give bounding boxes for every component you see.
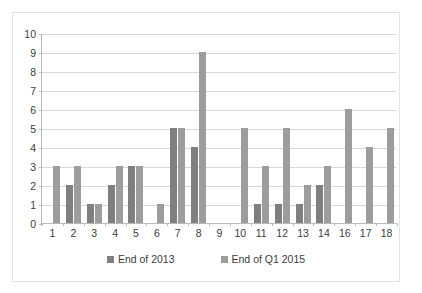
bar-group — [146, 34, 167, 223]
x-axis-tick-mark — [397, 223, 398, 226]
chart-legend: End of 2013 End of Q1 2015 — [13, 254, 399, 265]
x-axis-tick-label: 18 — [381, 228, 393, 239]
x-axis-tick-mark — [230, 223, 231, 226]
x-axis-tick-mark — [355, 223, 356, 226]
y-axis-tick-label: 4 — [30, 143, 36, 154]
bar-group — [126, 34, 147, 223]
y-axis-tick-label: 9 — [30, 48, 36, 59]
x-axis-tick-mark — [146, 223, 147, 226]
legend-item-end-of-2013: End of 2013 — [107, 254, 175, 265]
bar — [170, 128, 177, 223]
bar-group — [209, 34, 230, 223]
legend-item-end-of-q1-2015: End of Q1 2015 — [221, 254, 306, 265]
bar-group — [272, 34, 293, 223]
bar — [116, 166, 123, 223]
y-axis-tick-label: 6 — [30, 105, 36, 116]
plot-area: 012345678910 1234567891011121314161718 — [41, 34, 396, 224]
x-axis-tick-label: 6 — [154, 228, 160, 239]
bar — [296, 204, 303, 223]
x-axis-tick-label: 17 — [360, 228, 372, 239]
x-axis-tick-mark — [293, 223, 294, 226]
bar — [87, 204, 94, 223]
x-axis-tick-label: 12 — [276, 228, 288, 239]
x-axis-tick-label: 1 — [50, 228, 56, 239]
bar-group — [251, 34, 272, 223]
x-axis-tick-label: 3 — [91, 228, 97, 239]
x-axis-tick-label: 16 — [339, 228, 351, 239]
x-axis-tick-mark — [376, 223, 377, 226]
x-axis-tick-label: 9 — [217, 228, 223, 239]
x-axis-tick-mark — [105, 223, 106, 226]
legend-label: End of 2013 — [118, 254, 175, 265]
bar — [345, 109, 352, 223]
x-axis-tick-label: 10 — [235, 228, 247, 239]
bar-group — [63, 34, 84, 223]
x-axis-tick-mark — [209, 223, 210, 226]
bar-group — [334, 34, 355, 223]
chart-card: 012345678910 1234567891011121314161718 E… — [12, 12, 400, 282]
bar-group — [313, 34, 334, 223]
bar — [262, 166, 269, 223]
bars-container — [42, 34, 396, 223]
y-axis-tick-label: 2 — [30, 181, 36, 192]
bar — [178, 128, 185, 223]
x-axis-tick-mark — [272, 223, 273, 226]
x-axis-tick-mark — [334, 223, 335, 226]
x-axis-tick-mark — [126, 223, 127, 226]
bar — [66, 185, 73, 223]
x-axis-tick-mark — [313, 223, 314, 226]
x-axis-tick-label: 14 — [318, 228, 330, 239]
bar — [304, 185, 311, 223]
y-axis-tick-label: 5 — [30, 124, 36, 135]
y-axis-tick-label: 1 — [30, 200, 36, 211]
bar — [316, 185, 323, 223]
y-axis-tick-label: 7 — [30, 86, 36, 97]
bar-group — [230, 34, 251, 223]
bar-group — [188, 34, 209, 223]
bar-group — [42, 34, 63, 223]
bar-group — [376, 34, 397, 223]
bar — [136, 166, 143, 223]
bar — [241, 128, 248, 223]
legend-swatch-icon — [107, 256, 114, 263]
bar — [275, 204, 282, 223]
bar-group — [355, 34, 376, 223]
bar — [199, 52, 206, 223]
bar — [74, 166, 81, 223]
x-axis-tick-label: 13 — [297, 228, 309, 239]
bar-group — [293, 34, 314, 223]
bar — [53, 166, 60, 223]
x-axis-tick-label: 2 — [70, 228, 76, 239]
x-axis-tick-mark — [63, 223, 64, 226]
x-axis-tick-mark — [84, 223, 85, 226]
x-axis-tick-label: 8 — [196, 228, 202, 239]
bar — [283, 128, 290, 223]
x-axis-tick-mark — [251, 223, 252, 226]
bar — [128, 166, 135, 223]
bar — [95, 204, 102, 223]
legend-label: End of Q1 2015 — [232, 254, 306, 265]
x-axis-tick-label: 11 — [256, 228, 267, 239]
x-axis-tick-mark — [188, 223, 189, 226]
bar — [387, 128, 394, 223]
y-axis-tick-label: 8 — [30, 67, 36, 78]
bar — [108, 185, 115, 223]
x-axis-tick-label: 5 — [133, 228, 139, 239]
bar — [191, 147, 198, 223]
x-axis-tick-label: 7 — [175, 228, 181, 239]
x-axis-tick-mark — [42, 223, 43, 226]
plot-wrapper: 012345678910 1234567891011121314161718 — [41, 34, 396, 224]
bar-group — [84, 34, 105, 223]
y-axis-tick-label: 3 — [30, 162, 36, 173]
bar — [366, 147, 373, 223]
bar — [254, 204, 261, 223]
bar-group — [105, 34, 126, 223]
bar-group — [167, 34, 188, 223]
y-axis-tick-label: 0 — [30, 219, 36, 230]
bar — [324, 166, 331, 223]
x-axis-tick-mark — [167, 223, 168, 226]
y-axis-tick-label: 10 — [24, 29, 36, 40]
bar — [157, 204, 164, 223]
legend-swatch-icon — [221, 256, 228, 263]
x-axis-tick-label: 4 — [112, 228, 118, 239]
